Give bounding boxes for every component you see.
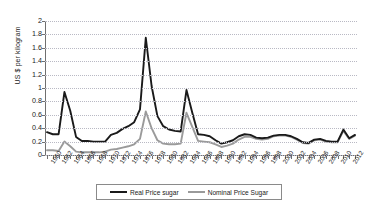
sugar-price-chart: US $ per kilogram 00.20.40.60.811.21.41.… [0,0,371,208]
gridline [45,75,357,76]
y-tick-label: 2 [2,17,42,24]
y-tick-label: 1.6 [2,44,42,51]
legend-label-real-price-sugar: Real Price sugar [130,189,179,196]
gridline [45,128,357,129]
legend-entry-nominal-price-sugar: Nominal Price Sugar [188,189,268,196]
gridline [45,115,357,116]
gridline [45,34,357,35]
y-axis-ticks: 00.20.40.60.811.21.41.61.82 [0,0,42,208]
chart-legend: Real Price sugar Nominal Price Sugar [96,184,282,200]
y-tick-label: 1.2 [2,71,42,78]
plot-area [45,21,357,155]
gridline [45,21,357,22]
x-tick-mark [47,156,48,159]
y-tick-label: 1 [2,84,42,91]
y-tick-label: 1.8 [2,30,42,37]
gridline [45,48,357,49]
legend-entry-real-price-sugar: Real Price sugar [110,189,179,196]
series-line-nominal-price-sugar [47,111,355,152]
y-tick-label: 0 [2,151,42,158]
gridline [45,101,357,102]
y-tick-label: 0.6 [2,111,42,118]
y-tick-label: 1.4 [2,57,42,64]
gridline [45,88,357,89]
gridline [45,61,357,62]
legend-swatch-icon-real [110,191,127,193]
y-tick-label: 0.8 [2,97,42,104]
gridline [45,142,357,143]
legend-swatch-icon-nominal [188,191,205,193]
y-tick-label: 0.4 [2,124,42,131]
legend-label-nominal-price-sugar: Nominal Price Sugar [208,189,268,196]
y-tick-label: 0.2 [2,138,42,145]
